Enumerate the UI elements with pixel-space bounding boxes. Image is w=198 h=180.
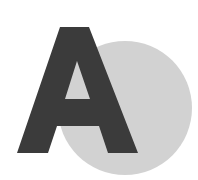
letter-a-circle-logo-icon: A <box>0 0 198 180</box>
logo: A <box>0 0 198 180</box>
